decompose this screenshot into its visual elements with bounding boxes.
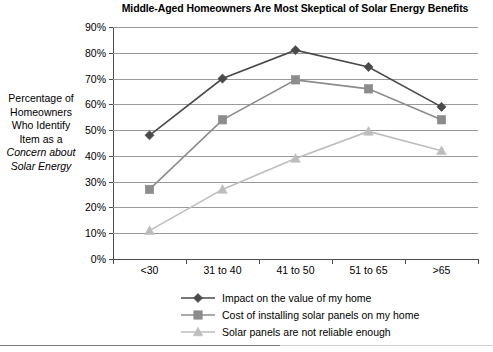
- y-axis-tick-label: 80%: [72, 48, 106, 59]
- y-axis-title-line: Solar Energy: [2, 160, 80, 174]
- x-axis-tick-label: <30: [110, 265, 190, 276]
- y-axis-tick-label: 40%: [72, 151, 106, 162]
- series-group: [145, 127, 447, 235]
- y-axis-title-line: Concern about: [2, 146, 80, 160]
- series-layer: [113, 27, 478, 260]
- x-axis-tick: [478, 260, 479, 264]
- legend-label: Solar panels are not reliable enough: [222, 326, 391, 338]
- data-point-marker: [194, 311, 202, 319]
- footer-rule: [0, 345, 280, 346]
- data-point-marker: [193, 293, 202, 302]
- x-axis-tick-label: >65: [402, 265, 482, 276]
- legend-marker-diamond-icon: [180, 290, 216, 306]
- y-axis-tick-label: 70%: [72, 74, 106, 85]
- y-axis-tick-label: 20%: [72, 202, 106, 213]
- y-axis-title-line: Who Identify: [2, 119, 80, 133]
- data-point-marker: [291, 46, 300, 55]
- chart-container: Middle-Aged Homeowners Are Most Skeptica…: [0, 0, 493, 352]
- series-line: [150, 50, 442, 135]
- y-axis-tick-label: 90%: [72, 22, 106, 33]
- x-axis-tick: [113, 260, 114, 264]
- series-line: [150, 131, 442, 230]
- y-axis-tick-label: 10%: [72, 228, 106, 239]
- x-axis-tick-label: 51 to 65: [329, 265, 409, 276]
- data-point-marker: [218, 185, 228, 194]
- series-group: [145, 46, 446, 140]
- data-point-marker: [364, 127, 374, 136]
- x-axis-tick-label: 41 to 50: [256, 265, 336, 276]
- x-axis-tick: [259, 260, 260, 264]
- legend-marker-triangle-icon: [180, 324, 216, 340]
- data-point-marker: [218, 116, 226, 124]
- y-axis-tick-label: 50%: [72, 125, 106, 136]
- y-axis-tick-label: 30%: [72, 177, 106, 188]
- x-axis-tick: [405, 260, 406, 264]
- y-axis-tick-label: 60%: [72, 99, 106, 110]
- data-point-marker: [437, 102, 446, 111]
- y-axis-title-line: Homeowners: [2, 106, 80, 120]
- series-group: [145, 76, 445, 194]
- data-point-marker: [437, 116, 445, 124]
- chart-title: Middle-Aged Homeowners Are Most Skeptica…: [100, 2, 490, 14]
- data-point-marker: [145, 185, 153, 193]
- y-axis-title: Percentage ofHomeownersWho IdentifyItem …: [2, 92, 80, 173]
- data-point-marker: [364, 62, 373, 71]
- data-point-marker: [145, 226, 155, 235]
- y-axis-title-line: Item as a: [2, 133, 80, 147]
- x-axis-tick: [186, 260, 187, 264]
- data-point-marker: [364, 85, 372, 93]
- legend-label: Impact on the value of my home: [222, 292, 371, 304]
- data-point-marker: [291, 76, 299, 84]
- y-axis-tick-label: 0%: [72, 254, 106, 265]
- x-axis-tick-label: 31 to 40: [183, 265, 263, 276]
- y-axis-title-line: Percentage of: [2, 92, 80, 106]
- legend-label: Cost of installing solar panels on my ho…: [222, 309, 419, 321]
- series-line: [150, 80, 442, 190]
- x-axis-tick: [332, 260, 333, 264]
- legend-marker-square-icon: [180, 307, 216, 323]
